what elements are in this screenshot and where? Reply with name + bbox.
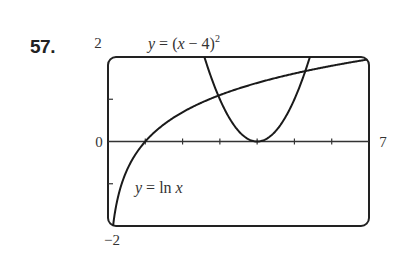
ln-label: y = ln x [133,179,183,197]
xmin-label: 0 [95,134,103,150]
xmax-label: 7 [379,134,387,150]
parabola-curve [201,46,313,141]
ymin-label: −2 [104,232,120,248]
ln-curve [113,59,369,227]
graph-window: 2 0 7 −2 y = (x − 4)2 y = ln x [0,0,393,267]
parabola-label: y = (x − 4)2 [146,33,220,53]
ymax-label: 2 [94,35,102,51]
